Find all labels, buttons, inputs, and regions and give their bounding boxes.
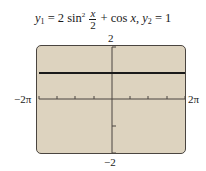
y-ticks <box>112 47 116 153</box>
graph-equation: y1 = 2 sin2 x2 + cos x, y2 = 1 <box>35 8 171 31</box>
fraction: x2 <box>89 8 96 31</box>
equation-part: = 2 sin <box>45 11 82 25</box>
ymin-label: −2 <box>104 157 116 168</box>
ymax-label: 2 <box>108 33 114 44</box>
equation-part: + cos <box>97 11 130 25</box>
fraction-denominator: 2 <box>89 20 96 31</box>
calculator-screen <box>36 45 186 154</box>
exponent: 2 <box>82 11 86 19</box>
equation-part: = 1 <box>152 11 172 25</box>
xmax-label: 2π <box>188 94 199 105</box>
xmin-label: −2π <box>14 94 31 105</box>
graph-plot <box>37 46 186 154</box>
